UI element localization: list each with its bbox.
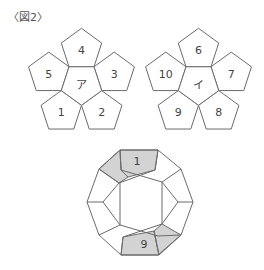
dodeca-edge (103, 202, 120, 225)
net_a-face-label: 2 (98, 106, 105, 119)
net_a-face-label: 4 (78, 44, 85, 57)
net_b-face-label: 9 (175, 106, 182, 119)
figure-canvas: 43215ア 678910イ 1 9 (0, 0, 264, 270)
net_b-face-label: 8 (215, 106, 222, 119)
pentagon-net-b: 678910イ (146, 28, 252, 129)
dodeca-label-9: 9 (141, 238, 148, 251)
dodeca-edge (162, 202, 178, 224)
net_a-face-label: 3 (111, 68, 118, 81)
net_b-face-label: 6 (195, 44, 202, 57)
dodecahedron-projection: 1 9 (87, 150, 193, 255)
dodeca-edge (162, 182, 193, 202)
net_b-face-label: 7 (228, 68, 235, 81)
net_b-center-label: イ (193, 79, 204, 92)
dodeca-label-1: 1 (134, 155, 141, 168)
net_a-face-label: 5 (45, 68, 52, 81)
net_b-face-label: 10 (159, 68, 173, 81)
pentagon-net-a: 43215ア (29, 28, 135, 129)
net_a-face-label: 1 (58, 106, 65, 119)
dodeca-edge (87, 183, 119, 202)
net_a-center-label: ア (76, 79, 87, 92)
